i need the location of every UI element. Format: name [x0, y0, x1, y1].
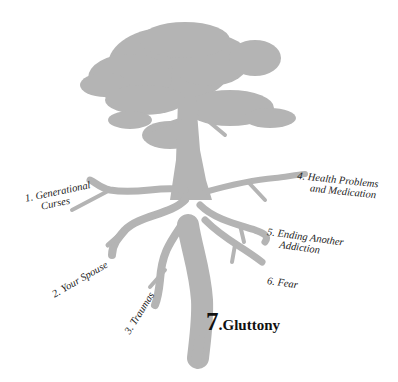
- tree-roots-diagram: 1. Generational Curses 2. Your Spouse 3.…: [0, 0, 398, 382]
- highlight-number: 7: [206, 308, 219, 335]
- highlight-word: Gluttony: [223, 317, 281, 333]
- highlight-label-gluttony: 7.Gluttony: [206, 308, 280, 336]
